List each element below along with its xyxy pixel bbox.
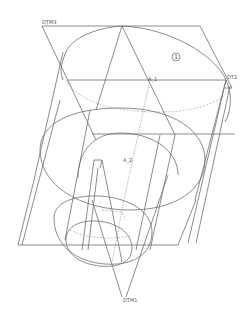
- datum-plane-dtm2[interactable]: [92, 26, 235, 243]
- upper-cylinder: [34, 26, 230, 200]
- label-dtm3: DTM3: [42, 19, 56, 25]
- label-dtm2: DT2: [227, 74, 237, 80]
- axis-a1[interactable]: [124, 80, 150, 200]
- callout-balloon[interactable]: 1: [172, 53, 180, 61]
- lower-cylinder: [54, 196, 152, 266]
- slot-feature: [82, 160, 126, 262]
- callout-number: 1: [174, 53, 178, 60]
- datum-plane-dtm1[interactable]: [18, 175, 196, 297]
- cad-wireframe-drawing: DTM3 DT2 DTM1 A_1 A_2 1: [0, 0, 251, 313]
- label-axis-a1: A_1: [148, 76, 157, 83]
- datum-plane-dtm3[interactable]: [42, 26, 232, 140]
- label-dtm1: DTM1: [123, 297, 137, 303]
- label-axis-a2: A_2: [123, 157, 132, 164]
